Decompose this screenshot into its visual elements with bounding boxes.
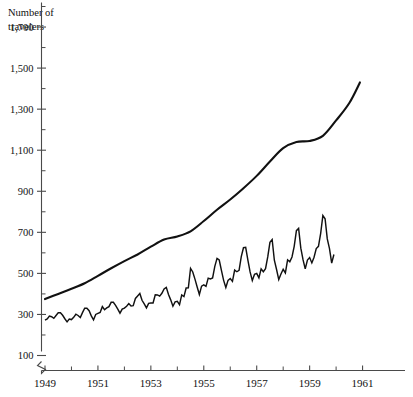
x-tick-label: 1949 [34, 377, 57, 389]
y-tick-label: 1,100 [10, 145, 34, 156]
y-tick-label: 500 [18, 268, 34, 279]
x-tick-label: 1955 [193, 377, 216, 389]
y-axis: 1003005007009001,1001,3001,5001,700 [10, 3, 46, 362]
chart-title-line1: Number of [8, 7, 54, 18]
travelers-line-chart: Number of travelers 1003005007009001,100… [0, 0, 413, 397]
chart-figure: Number of travelers 1003005007009001,100… [0, 0, 413, 397]
y-tick-label: 1,500 [10, 63, 34, 74]
y-tick-label: 100 [18, 350, 34, 361]
y-axis-break-icon [38, 362, 46, 374]
x-tick-label: 1959 [299, 377, 322, 389]
y-tick-label: 700 [18, 227, 34, 238]
series-smoothed-trend [45, 82, 360, 299]
y-tick-label: 1,700 [10, 22, 34, 33]
y-tick-label: 1,300 [10, 104, 34, 115]
y-tick-label: 900 [18, 186, 34, 197]
x-tick-label: 1953 [140, 377, 163, 389]
y-tick-label: 300 [18, 309, 34, 320]
x-tick-label: 1951 [87, 377, 109, 389]
x-tick-label: 1957 [246, 377, 269, 389]
x-axis: 1949195119531955195719591961 [34, 366, 405, 389]
x-tick-label: 1961 [352, 377, 374, 389]
